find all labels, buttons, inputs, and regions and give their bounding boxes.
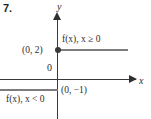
function-ray-lower: [0, 89, 58, 91]
y-axis-label: y: [57, 1, 61, 12]
y-axis-line: [57, 15, 58, 119]
piece-label-x-ge-0: f(x), x ≥ 0: [62, 34, 100, 45]
problem-number: 7.: [3, 2, 12, 14]
point-label-0-2: (0, 2): [22, 45, 43, 56]
x-axis-line: [0, 79, 136, 80]
x-axis-label: x: [139, 75, 143, 86]
y-axis-arrow-icon: [53, 12, 61, 20]
point-label-0-neg1: (0, −1): [61, 85, 87, 96]
piecewise-function-figure: 7. y x 0 (0, 2) f(x), x ≥ 0 (0, −1) f(x)…: [0, 0, 151, 119]
endpoint-dot-icon: [55, 47, 61, 53]
x-axis-arrow-icon: [129, 75, 137, 83]
piece-label-x-lt-0: f(x), x < 0: [6, 94, 45, 105]
origin-label: 0: [47, 62, 52, 73]
function-ray-upper: [58, 49, 128, 51]
